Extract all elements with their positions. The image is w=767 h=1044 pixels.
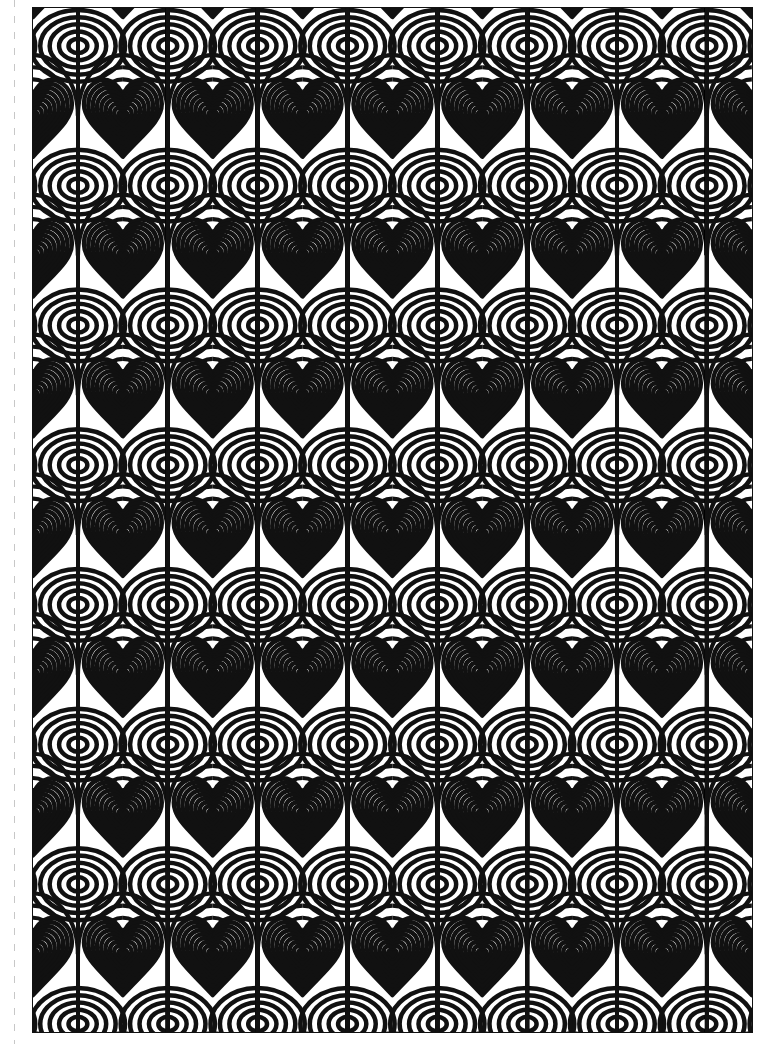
artwork-frame — [32, 7, 753, 1033]
op-art-pattern — [33, 8, 752, 1032]
page-canvas — [0, 0, 767, 1044]
perforation-line — [14, 0, 15, 1044]
